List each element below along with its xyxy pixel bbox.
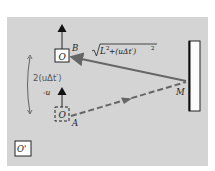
frame-label: O' <box>17 144 26 154</box>
annotation-text: 2(uΔt′) <box>33 73 62 83</box>
label-mid: +(uΔt′) <box>109 47 136 56</box>
label-sup2: 2 <box>151 45 155 51</box>
velocity-label: -u <box>43 88 51 97</box>
observer-top-label: O <box>59 52 67 62</box>
mirror-label: M <box>175 87 185 97</box>
diagram-canvas: O B L 2 +(uΔt′) 2 M -u O A 2(uΔt′) <box>0 0 215 171</box>
label-L: L <box>99 46 106 56</box>
point-a-label: A <box>71 118 78 128</box>
frame-origin: O' <box>15 141 31 156</box>
mirror-body <box>189 41 200 111</box>
point-b-label: B <box>71 43 78 53</box>
observer-bottom-label: O <box>59 110 67 120</box>
